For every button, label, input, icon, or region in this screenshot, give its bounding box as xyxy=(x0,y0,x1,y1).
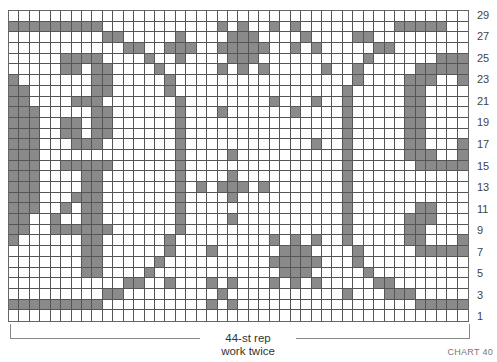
empty-stitch-cell xyxy=(30,54,40,65)
empty-stitch-cell xyxy=(270,43,280,54)
empty-stitch-cell xyxy=(19,54,29,65)
empty-stitch-cell xyxy=(322,129,332,140)
empty-stitch-cell xyxy=(40,75,50,86)
empty-stitch-cell xyxy=(92,32,102,43)
empty-stitch-cell xyxy=(238,193,248,204)
empty-stitch-cell xyxy=(259,203,269,214)
filled-stitch-cell xyxy=(218,64,228,75)
empty-stitch-cell xyxy=(291,171,301,182)
empty-stitch-cell xyxy=(186,11,196,22)
empty-stitch-cell xyxy=(124,214,134,225)
empty-stitch-cell xyxy=(447,43,457,54)
empty-stitch-cell xyxy=(364,289,374,300)
empty-stitch-cell xyxy=(437,86,447,97)
empty-stitch-cell xyxy=(197,43,207,54)
empty-stitch-cell xyxy=(218,300,228,311)
empty-stitch-cell xyxy=(103,257,113,268)
empty-stitch-cell xyxy=(113,310,123,321)
empty-stitch-cell xyxy=(207,214,217,225)
empty-stitch-cell xyxy=(458,11,468,22)
empty-stitch-cell xyxy=(259,310,269,321)
empty-stitch-cell xyxy=(124,193,134,204)
empty-stitch-cell xyxy=(82,310,92,321)
empty-stitch-cell xyxy=(72,150,82,161)
empty-stitch-cell xyxy=(207,182,217,193)
empty-stitch-cell xyxy=(385,32,395,43)
empty-stitch-cell xyxy=(197,32,207,43)
empty-stitch-cell xyxy=(145,22,155,33)
empty-stitch-cell xyxy=(322,118,332,129)
empty-stitch-cell xyxy=(238,11,248,22)
empty-stitch-cell xyxy=(218,86,228,97)
filled-stitch-cell xyxy=(82,300,92,311)
empty-stitch-cell xyxy=(332,64,342,75)
empty-stitch-cell xyxy=(249,22,259,33)
empty-stitch-cell xyxy=(291,139,301,150)
filled-stitch-cell xyxy=(312,257,322,268)
empty-stitch-cell xyxy=(82,43,92,54)
empty-stitch-cell xyxy=(238,278,248,289)
empty-stitch-cell xyxy=(145,289,155,300)
filled-stitch-cell xyxy=(374,278,384,289)
empty-stitch-cell xyxy=(176,289,186,300)
empty-stitch-cell xyxy=(447,129,457,140)
empty-stitch-cell xyxy=(19,11,29,22)
empty-stitch-cell xyxy=(332,289,342,300)
filled-stitch-cell xyxy=(426,150,436,161)
empty-stitch-cell xyxy=(72,11,82,22)
empty-stitch-cell xyxy=(103,171,113,182)
filled-stitch-cell xyxy=(416,150,426,161)
empty-stitch-cell xyxy=(426,97,436,108)
empty-stitch-cell xyxy=(416,289,426,300)
empty-stitch-cell xyxy=(9,32,19,43)
filled-stitch-cell xyxy=(19,97,29,108)
empty-stitch-cell xyxy=(458,268,468,279)
empty-stitch-cell xyxy=(270,214,280,225)
empty-stitch-cell xyxy=(270,300,280,311)
empty-stitch-cell xyxy=(124,75,134,86)
filled-stitch-cell xyxy=(103,129,113,140)
filled-stitch-cell xyxy=(416,107,426,118)
filled-stitch-cell xyxy=(343,225,353,236)
empty-stitch-cell xyxy=(364,86,374,97)
empty-stitch-cell xyxy=(364,214,374,225)
empty-stitch-cell xyxy=(301,107,311,118)
empty-stitch-cell xyxy=(238,235,248,246)
empty-stitch-cell xyxy=(113,257,123,268)
empty-stitch-cell xyxy=(207,193,217,204)
filled-stitch-cell xyxy=(405,214,415,225)
filled-stitch-cell xyxy=(176,203,186,214)
empty-stitch-cell xyxy=(364,278,374,289)
empty-stitch-cell xyxy=(30,43,40,54)
empty-stitch-cell xyxy=(270,161,280,172)
empty-stitch-cell xyxy=(437,129,447,140)
filled-stitch-cell xyxy=(416,129,426,140)
empty-stitch-cell xyxy=(61,182,71,193)
empty-stitch-cell xyxy=(291,193,301,204)
empty-stitch-cell xyxy=(322,235,332,246)
empty-stitch-cell xyxy=(40,129,50,140)
empty-stitch-cell xyxy=(197,150,207,161)
empty-stitch-cell xyxy=(30,289,40,300)
empty-stitch-cell xyxy=(458,118,468,129)
filled-stitch-cell xyxy=(405,22,415,33)
empty-stitch-cell xyxy=(165,64,175,75)
empty-stitch-cell xyxy=(155,310,165,321)
empty-stitch-cell xyxy=(426,86,436,97)
empty-stitch-cell xyxy=(353,214,363,225)
empty-stitch-cell xyxy=(82,278,92,289)
empty-stitch-cell xyxy=(19,43,29,54)
empty-stitch-cell xyxy=(270,118,280,129)
empty-stitch-cell xyxy=(458,310,468,321)
empty-stitch-cell xyxy=(322,107,332,118)
empty-stitch-cell xyxy=(322,86,332,97)
empty-stitch-cell xyxy=(353,139,363,150)
filled-stitch-cell xyxy=(322,64,332,75)
filled-stitch-cell xyxy=(9,214,19,225)
filled-stitch-cell xyxy=(92,107,102,118)
empty-stitch-cell xyxy=(134,171,144,182)
empty-stitch-cell xyxy=(145,171,155,182)
filled-stitch-cell xyxy=(82,22,92,33)
empty-stitch-cell xyxy=(134,107,144,118)
empty-stitch-cell xyxy=(165,97,175,108)
